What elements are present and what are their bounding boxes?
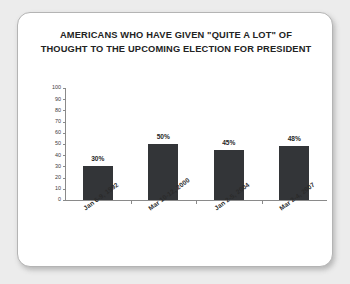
y-axis-tick-label: 40: [41, 153, 61, 158]
y-axis-tick-label: 0: [41, 197, 61, 202]
y-axis-tick-mark: [63, 166, 66, 167]
y-axis-tick-mark: [63, 99, 66, 100]
bar-value-label: 50%: [143, 134, 183, 141]
y-axis-tick-label: 80: [41, 108, 61, 113]
y-axis-tick-mark: [63, 200, 66, 201]
y-axis-tick-label: 70: [41, 119, 61, 124]
y-axis-tick-label: 30: [41, 164, 61, 169]
chart-title: AMERICANS WHO HAVE GIVEN "QUITE A LOT" O…: [28, 29, 324, 56]
chart-title-line-1: AMERICANS WHO HAVE GIVEN "QUITE A LOT" O…: [28, 29, 324, 43]
y-axis-tick-mark: [63, 133, 66, 134]
y-axis-tick-mark: [63, 110, 66, 111]
chart-title-line-2: THOUGHT TO THE UPCOMING ELECTION FOR PRE…: [28, 43, 324, 57]
y-axis-tick-label: 100: [41, 85, 61, 90]
y-axis-tick-label: 60: [41, 130, 61, 135]
bar-value-label: 45%: [209, 140, 249, 147]
y-axis-tick-mark: [63, 144, 66, 145]
x-axis-tick-mark: [131, 200, 132, 204]
y-axis-tick-mark: [63, 178, 66, 179]
y-axis-line: [65, 88, 66, 200]
bar-value-label: 30%: [78, 156, 118, 163]
plot-area: 1009080706050403020100 30%50%45%48% Jan …: [65, 88, 327, 200]
y-axis-tick-mark: [63, 122, 66, 123]
chart-card: AMERICANS WHO HAVE GIVEN "QUITE A LOT" O…: [17, 12, 333, 267]
x-axis-tick-mark: [196, 200, 197, 204]
y-axis-tick-mark: [63, 189, 66, 190]
y-axis-tick-label: 20: [41, 175, 61, 180]
x-axis-tick-mark: [262, 200, 263, 204]
y-axis-tick-label: 90: [41, 97, 61, 102]
y-axis-tick-mark: [63, 155, 66, 156]
y-axis-tick-label: 50: [41, 141, 61, 146]
y-axis-tick-mark: [63, 88, 66, 89]
bar-value-label: 48%: [274, 136, 314, 143]
y-axis-tick-label: 10: [41, 186, 61, 191]
